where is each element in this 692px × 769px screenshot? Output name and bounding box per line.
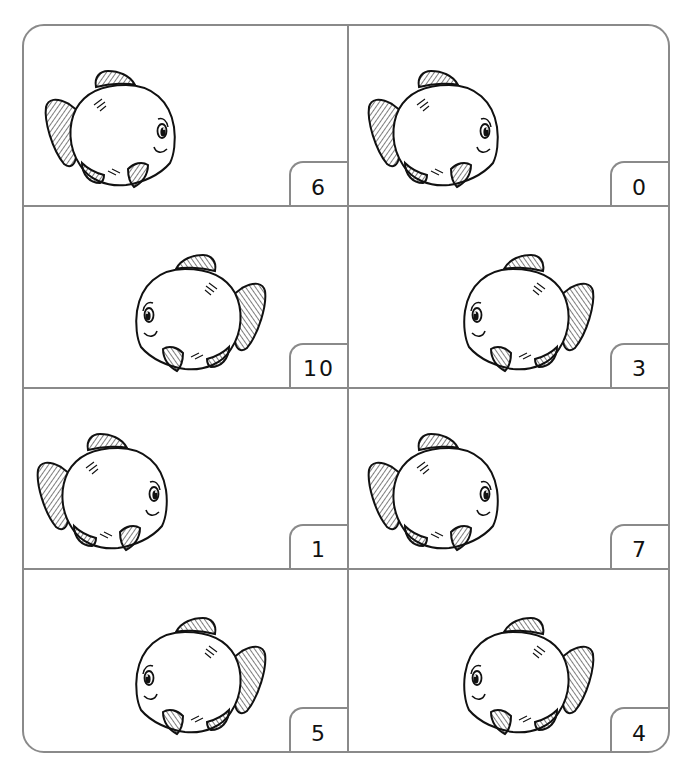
card-cell: 7 (349, 389, 668, 570)
card-cell: 5 (24, 570, 349, 751)
fish-icon (365, 422, 505, 552)
number-tag: 10 (289, 343, 347, 387)
fish-icon (42, 59, 182, 189)
number-tag: 6 (289, 161, 347, 205)
card-cell: 4 (349, 570, 668, 751)
card-cell: 6 (24, 26, 349, 207)
worksheet-grid: 6 0 10 3 1 (24, 26, 668, 751)
number-tag: 5 (289, 707, 347, 751)
number-tag: 7 (610, 524, 668, 568)
number-tag: 1 (289, 524, 347, 568)
card-cell: 3 (349, 207, 668, 388)
fish-icon (457, 606, 597, 736)
worksheet: 6 0 10 3 1 (22, 24, 670, 753)
fish-icon (365, 59, 505, 189)
number-tag: 3 (610, 343, 668, 387)
card-cell: 1 (24, 389, 349, 570)
fish-icon (34, 422, 174, 552)
fish-icon (457, 243, 597, 373)
number-tag: 0 (610, 161, 668, 205)
fish-icon (129, 243, 269, 373)
number-tag: 4 (610, 707, 668, 751)
card-cell: 10 (24, 207, 349, 388)
fish-icon (129, 606, 269, 736)
card-cell: 0 (349, 26, 668, 207)
